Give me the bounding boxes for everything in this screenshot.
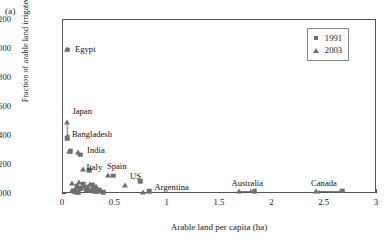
y-tick-label: 0,800 [0,72,11,82]
triangle-marker [312,48,320,53]
country-label: Japan [72,106,92,116]
connector-arrow [239,191,254,192]
chart-figure: (a) Fraction of arable land irrigated Ar… [0,0,390,242]
connector-arrow [318,191,342,192]
y-tick-label: 1,000 [0,43,11,53]
legend-item: 2003 [312,44,342,56]
y-tick-label: 0,200 [0,159,11,169]
x-tick-label: 1 [164,197,168,207]
plot-area: EgyptJapanBangladeshIndiaItalySpainUSArg… [62,19,376,193]
connector-arrow [66,122,68,137]
y-axis-title: Fraction of arable land irrigated [21,0,30,139]
country-label: Argentina [155,182,189,192]
country-label: India [87,145,105,155]
data-point-2003 [122,182,128,187]
data-point-2003 [80,166,86,171]
x-tick-label: 0 [60,197,64,207]
data-point-2003 [66,148,72,153]
country-label: Spain [107,161,127,171]
x-tick-label: 2.5 [318,197,329,207]
data-point-2003 [75,149,81,154]
data-point-2003 [96,189,102,194]
country-label: Canada [311,178,337,188]
square-marker [312,36,320,41]
data-point-2003 [93,184,99,189]
data-point-2003 [105,173,111,178]
x-tick-label: 1.5 [214,197,225,207]
y-tick-mark [62,193,66,194]
country-label: Egypt [75,44,96,54]
legend: 19912003 [307,28,349,61]
x-tick-label: 0.5 [109,197,120,207]
data-point-1991 [111,174,116,179]
y-tick-label: 1,200 [0,14,11,24]
country-label: Australia [232,178,264,188]
data-point-1991 [101,190,106,195]
data-point-2003 [73,189,79,194]
legend-label: 2003 [325,44,342,56]
x-axis-title: Arable land per capita (ha) [62,222,376,232]
country-label: Bangladesh [72,129,112,139]
x-tick-mark [376,189,377,193]
legend-label: 1991 [325,32,342,44]
x-tick-label: 3 [374,197,378,207]
data-point-1991 [147,189,152,194]
country-label: Italy [87,162,103,172]
y-tick-label: 0,000 [0,188,11,198]
x-tick-label: 2 [269,197,273,207]
data-point-2003 [64,47,70,52]
data-point-2003 [140,189,146,194]
y-tick-label: 0,600 [0,101,11,111]
legend-item: 1991 [312,32,342,44]
y-tick-label: 0,400 [0,130,11,140]
country-label: US [130,171,141,181]
